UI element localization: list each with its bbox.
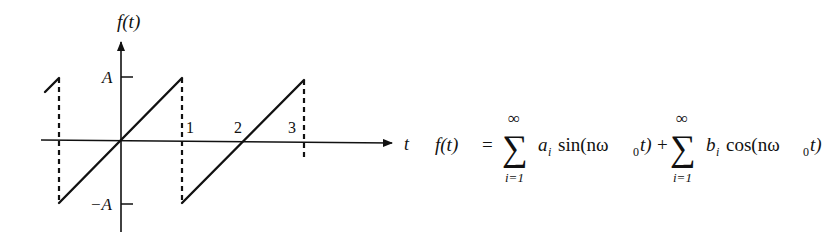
formula-lhs: f(t) bbox=[435, 134, 458, 156]
fourier-series-formula: f(t) = ∞ ∑ i=1 a i sin(nω 0 t) + ∞ ∑ i=1… bbox=[435, 109, 822, 185]
sum1-lower: i=1 bbox=[505, 170, 524, 185]
y-tick-label-A: A bbox=[101, 68, 113, 87]
sum2-func: cos(nω bbox=[726, 134, 780, 156]
x-tick-label-3: 3 bbox=[288, 119, 296, 136]
sum1-omega-sub: 0 bbox=[633, 145, 639, 159]
sum1-arg-tail: t) bbox=[640, 134, 652, 156]
sum1-coef-sub: i bbox=[548, 145, 551, 159]
sawtooth-figure: f(t) t A −A 1 2 3 f(t) = ∞ ∑ i=1 a i sin… bbox=[0, 0, 836, 240]
sum2-upper: ∞ bbox=[676, 109, 688, 128]
sum2-coef: b bbox=[706, 134, 716, 155]
sum2-omega-sub: 0 bbox=[803, 145, 809, 159]
x-axis bbox=[41, 140, 392, 143]
sum1-func: sin(nω bbox=[558, 134, 609, 156]
x-axis-label: t bbox=[404, 134, 410, 154]
sum1-coef: a bbox=[538, 134, 548, 155]
formula-plus: + bbox=[657, 134, 668, 155]
y-axis-label: f(t) bbox=[117, 11, 140, 33]
sum2-lower: i=1 bbox=[673, 170, 692, 185]
sum1-upper: ∞ bbox=[508, 109, 520, 128]
x-tick-label-1: 1 bbox=[186, 119, 194, 136]
sum2-coef-sub: i bbox=[716, 145, 719, 159]
sum1-sigma-icon: ∑ bbox=[502, 128, 528, 168]
x-tick-label-2: 2 bbox=[234, 119, 242, 136]
y-tick-label-minus-A: −A bbox=[90, 195, 112, 214]
formula-equals: = bbox=[482, 134, 493, 155]
sum2-arg-tail: t) bbox=[810, 134, 822, 156]
sum2-sigma-icon: ∑ bbox=[670, 128, 696, 168]
